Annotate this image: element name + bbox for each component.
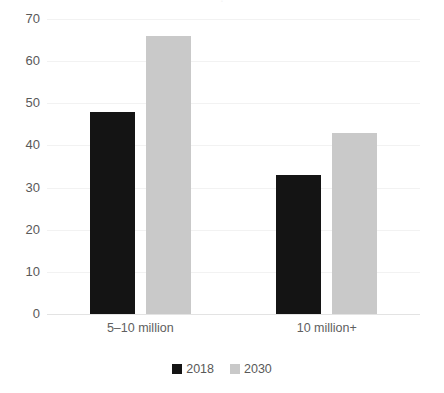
gridline-70	[47, 19, 420, 20]
legend-item-2030[interactable]: 2030	[230, 363, 272, 376]
bar-chart: . 010203040506070 5–10 million 10 millio…	[0, 0, 444, 393]
y-axis-tick-70: 70	[4, 12, 40, 25]
y-axis-tick-0: 0	[4, 307, 40, 320]
y-axis-tick-10: 10	[4, 265, 40, 278]
gridline-50	[47, 103, 420, 104]
y-axis-tick-30: 30	[4, 181, 40, 194]
bar-2018-5-10-million[interactable]	[90, 112, 135, 314]
y-axis: 010203040506070	[0, 19, 40, 314]
x-axis-category-labels: 5–10 million 10 million+	[47, 320, 420, 340]
legend-swatch-icon-2030	[230, 364, 240, 374]
gridline-0	[47, 314, 420, 315]
y-axis-tick-50: 50	[4, 96, 40, 109]
legend-swatch-icon-2018	[172, 364, 182, 374]
y-axis-tick-20: 20	[4, 223, 40, 236]
bar-2030-5-10-million[interactable]	[146, 36, 191, 314]
bar-2030-10-million-[interactable]	[332, 133, 377, 314]
x-axis-label-group-1: 5–10 million	[60, 320, 221, 336]
legend-label-2018: 2018	[186, 363, 214, 376]
x-axis-label-group-2: 10 million+	[246, 320, 407, 336]
y-axis-tick-60: 60	[4, 54, 40, 67]
bar-2018-10-million-[interactable]	[276, 175, 321, 314]
chart-legend: 2018 2030	[0, 359, 444, 379]
legend-label-2030: 2030	[244, 363, 272, 376]
plot-area	[47, 19, 420, 314]
chart-title-clipped: .	[0, 0, 444, 3]
legend-item-2018[interactable]: 2018	[172, 363, 214, 376]
y-axis-tick-40: 40	[4, 138, 40, 151]
gridline-60	[47, 61, 420, 62]
